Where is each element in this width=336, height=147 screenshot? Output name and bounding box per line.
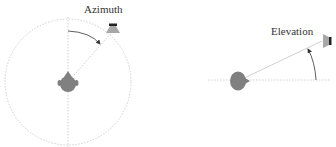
listener-head-top-icon — [58, 71, 79, 92]
azimuth-speaker-direction — [68, 32, 112, 82]
azimuth-panel — [5, 17, 131, 147]
speaker-icon-azimuth — [106, 24, 120, 34]
elevation-label: Elevation — [271, 25, 313, 37]
azimuth-label: Azimuth — [84, 3, 123, 15]
azimuth-arc-arrow — [68, 31, 100, 44]
elevation-panel — [208, 34, 332, 91]
speaker-icon-elevation — [323, 34, 332, 48]
listener-head-side-icon — [230, 72, 250, 91]
azimuth-elevation-diagram — [0, 0, 336, 147]
elevation-arc-arrow — [308, 49, 316, 80]
elevation-speaker-direction — [240, 41, 322, 80]
